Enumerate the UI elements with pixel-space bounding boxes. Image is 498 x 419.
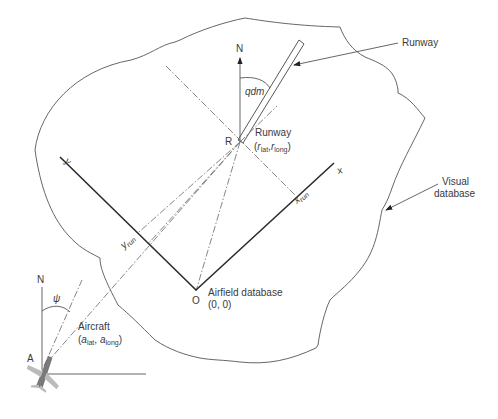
psi-arc <box>42 306 70 312</box>
x-run-label: xrun <box>290 187 310 207</box>
runway-callout-label: Runway <box>402 37 438 48</box>
origin-label: O <box>192 295 200 306</box>
psi-label: ψ <box>53 293 61 304</box>
visual-database-label-line1: Visual <box>442 176 469 187</box>
airfield-axes <box>60 157 334 290</box>
airfield-geometry-diagram: Runway Visual database N qdm R Runway (r… <box>0 0 498 419</box>
runway-point-R-label: R <box>225 136 232 147</box>
runway-callout-arrow <box>294 43 398 65</box>
aircraft-title: Aircraft <box>78 321 110 332</box>
runway-to-origin-line <box>196 142 240 291</box>
origin-coords: (0, 0) <box>208 299 231 310</box>
runway-point-title: Runway <box>255 127 291 138</box>
visual-database-label-line2: database <box>434 188 476 199</box>
x-axis-label: x <box>336 164 343 176</box>
aircraft-point-A-label: A <box>27 353 34 364</box>
visual-database-callout-arrow <box>386 184 438 210</box>
runway-point-coords: (rlat,rlong) <box>254 141 291 154</box>
runway-to-aircraft-line <box>44 142 240 366</box>
aircraft-heading-line <box>44 280 82 366</box>
y-run-label: yrun <box>117 232 137 252</box>
north-label-runway: N <box>236 43 243 54</box>
origin-title: Airfield database <box>208 287 283 298</box>
aircraft-coords: (alat, along) <box>78 334 122 347</box>
runway-to-yrun-line-1 <box>139 142 240 232</box>
runway-to-yrun-line-2 <box>148 142 240 244</box>
qdm-label: qdm <box>245 86 264 97</box>
north-label-aircraft: N <box>37 274 44 285</box>
